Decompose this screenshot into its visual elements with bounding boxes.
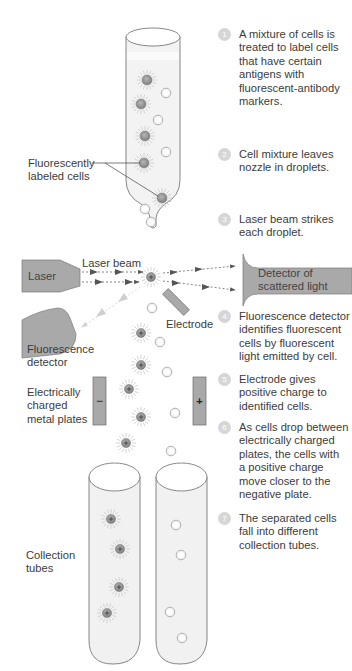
step-badge: 1: [218, 28, 231, 41]
positive-sign: +: [196, 395, 202, 407]
electrode: [163, 289, 190, 316]
step-text: The separated cells fall into different …: [239, 512, 337, 552]
label-electrode: Electrode: [166, 318, 213, 331]
step-text: Cell mixture leaves nozzle in droplets.: [239, 148, 334, 175]
step-text: Laser beam strikes each droplet.: [239, 213, 334, 240]
step-text: Fluorescence detector identifies fluores…: [239, 310, 350, 364]
step-text: A mixture of cells is treated to label c…: [239, 28, 340, 108]
step-badge: 6: [218, 421, 231, 434]
label-fluorescence-detector: Fluorescence detector: [27, 343, 94, 370]
step-text: As cells drop between electrically charg…: [239, 421, 348, 501]
label-charged-plates: Electrically charged metal plates: [27, 386, 87, 426]
label-laser: Laser: [28, 270, 56, 283]
negative-sign: −: [96, 394, 103, 408]
cell-at-laser: [141, 267, 161, 287]
collection-tube-left: [89, 463, 140, 664]
fluorescence-emission: [82, 287, 140, 327]
step-badge: 3: [218, 213, 231, 226]
step-badge: 7: [218, 512, 231, 525]
label-fluorescently-labeled-cells: Fluorescently labeled cells: [28, 157, 95, 184]
label-detector-scattered-light: Detector of scattered light: [258, 267, 328, 294]
step-badge: 4: [218, 310, 231, 323]
fluor-arrowheads: [96, 293, 128, 317]
step-badge: 2: [218, 148, 231, 161]
label-collection-tubes: Collection tubes: [26, 549, 75, 576]
label-laser-beam: Laser beam: [82, 257, 141, 270]
step-text: Electrode gives positive charge to ident…: [239, 373, 327, 413]
step-badge: 5: [218, 373, 231, 386]
facs-diagram: − + Fluorescently labeled cells Laser be…: [0, 0, 352, 671]
